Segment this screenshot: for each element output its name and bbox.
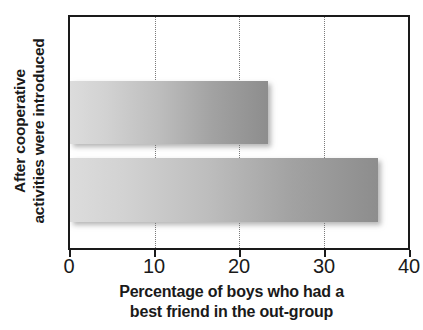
y-axis-title-line-1: After cooperative bbox=[10, 38, 29, 223]
tick-label-40: 40 bbox=[386, 256, 423, 276]
tick-label-10: 10 bbox=[131, 256, 177, 276]
x-axis-title-line-2: best friend in the out-group bbox=[40, 302, 423, 322]
x-axis-title: Percentage of boys who had a best friend… bbox=[40, 282, 423, 323]
bar-chart-figure: After cooperative activities were introd… bbox=[0, 0, 423, 330]
bar-top bbox=[70, 81, 268, 144]
tick-label-30: 30 bbox=[301, 256, 347, 276]
plot-inner bbox=[70, 17, 408, 248]
y-axis-title-line-2: activities were introduced bbox=[29, 38, 48, 223]
y-axis-title: After cooperative activities were introd… bbox=[0, 0, 58, 262]
x-axis-title-line-1: Percentage of boys who had a bbox=[40, 282, 423, 302]
tick-label-20: 20 bbox=[216, 256, 262, 276]
tick-label-0: 0 bbox=[46, 256, 92, 276]
bar-bottom bbox=[70, 158, 378, 222]
plot-area bbox=[68, 15, 410, 250]
